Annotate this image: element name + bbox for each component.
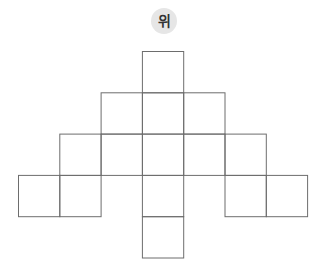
cube-grid-diagram	[0, 0, 329, 270]
grid-cell	[184, 93, 225, 134]
grid-cell	[60, 175, 101, 216]
grid-cell	[266, 175, 307, 216]
grid-cell	[142, 175, 183, 216]
grid-cell	[142, 134, 183, 175]
grid-cell	[101, 134, 142, 175]
grid-cell	[101, 93, 142, 134]
grid-cell	[142, 93, 183, 134]
grid-cell	[142, 217, 183, 258]
grid-cell	[19, 175, 60, 216]
grid-cell	[225, 134, 266, 175]
grid-cell	[184, 134, 225, 175]
grid-cell	[142, 52, 183, 93]
grid-cell	[60, 134, 101, 175]
grid-cell	[225, 175, 266, 216]
